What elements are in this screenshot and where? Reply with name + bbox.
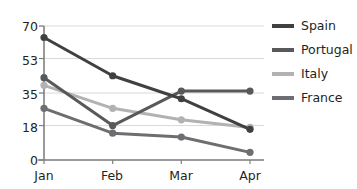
x-tick-label: Mar: [169, 168, 193, 183]
y-tick-label: 0: [30, 153, 38, 168]
data-point[interactable]: [178, 116, 185, 123]
legend-swatch-icon: [272, 96, 294, 100]
y-tick-label: 35: [22, 87, 38, 102]
line-chart: 70 53 35 18 0 Jan Feb Mar Apr Spain Port…: [0, 0, 357, 189]
series-layer: [40, 34, 253, 156]
data-point[interactable]: [109, 130, 116, 137]
legend-label: Portugal: [301, 44, 353, 57]
series-portugal: [40, 74, 253, 129]
legend-item-spain[interactable]: Spain: [272, 14, 357, 38]
data-point[interactable]: [40, 34, 47, 41]
data-point[interactable]: [246, 87, 253, 94]
legend-swatch-icon: [272, 48, 294, 52]
x-tick-label: Apr: [239, 168, 261, 183]
y-tick-label: 18: [22, 120, 38, 135]
data-point[interactable]: [178, 95, 185, 102]
data-point[interactable]: [40, 82, 47, 89]
data-point[interactable]: [109, 72, 116, 79]
y-tick-label: 70: [22, 19, 38, 34]
legend-item-france[interactable]: France: [272, 86, 357, 110]
data-point[interactable]: [246, 149, 253, 156]
data-point[interactable]: [109, 122, 116, 129]
data-point[interactable]: [40, 74, 47, 81]
legend-swatch-icon: [272, 24, 294, 28]
data-point[interactable]: [40, 105, 47, 112]
x-tick-label: Jan: [33, 168, 53, 183]
series-italy: [40, 82, 253, 131]
series-france: [40, 105, 253, 156]
legend-item-portugal[interactable]: Portugal: [272, 38, 357, 62]
y-tick-label: 53: [22, 53, 38, 68]
data-point[interactable]: [178, 133, 185, 140]
data-point[interactable]: [178, 87, 185, 94]
y-tick-labels: 70 53 35 18 0: [22, 19, 38, 168]
gridlines: [39, 26, 264, 160]
legend-label: France: [301, 92, 343, 105]
data-point[interactable]: [109, 105, 116, 112]
legend-swatch-icon: [272, 72, 294, 76]
chart-legend: Spain Portugal Italy France: [272, 14, 357, 110]
legend-item-italy[interactable]: Italy: [272, 62, 357, 86]
legend-label: Italy: [301, 68, 328, 81]
x-tick-labels: Jan Feb Mar Apr: [33, 168, 261, 183]
x-tick-label: Feb: [101, 168, 123, 183]
series-line: [44, 37, 250, 129]
data-point[interactable]: [246, 126, 253, 133]
legend-label: Spain: [301, 20, 336, 33]
